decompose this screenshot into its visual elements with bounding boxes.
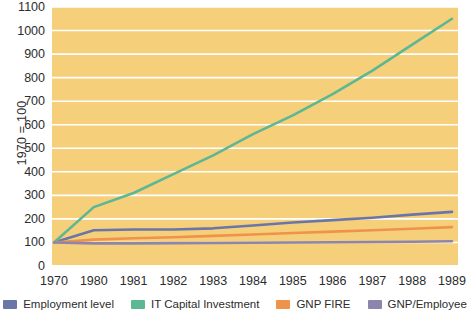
x-tick-label: 1970 <box>40 274 68 288</box>
x-tickmark <box>333 266 335 273</box>
y-tick-label: 1100 <box>18 1 45 14</box>
x-tickmark <box>54 266 56 273</box>
x-tick-label: 1989 <box>438 274 466 288</box>
x-tick-label: 1980 <box>80 274 108 288</box>
gridlines <box>52 7 458 266</box>
y-tick-label: 400 <box>24 166 45 179</box>
x-tickmark <box>213 266 215 273</box>
legend-item[interactable]: GNP/Employee <box>368 298 467 310</box>
x-tickmark <box>134 266 136 273</box>
y-tick-label: 200 <box>24 213 45 226</box>
x-tick-label: 1982 <box>159 274 187 288</box>
y-tick-label: 800 <box>24 71 45 84</box>
series-line <box>54 19 452 243</box>
legend-item[interactable]: IT Capital Investment <box>131 298 259 310</box>
legend-color-swatch <box>368 300 382 309</box>
y-tick-label: 700 <box>24 95 45 108</box>
legend-color-swatch <box>276 300 290 309</box>
x-tick-label: 1984 <box>239 274 267 288</box>
x-tickmark <box>372 266 374 273</box>
y-tick-label: 900 <box>24 48 45 61</box>
y-tick-label: 0 <box>38 260 45 273</box>
y-axis-tick-labels: 110010009008007006005004003002001000 <box>0 0 49 272</box>
legend-color-swatch <box>131 300 145 309</box>
y-tick-label: 500 <box>24 142 45 155</box>
x-axis-tick-labels: 1970198019811982198319841985198619871988… <box>52 274 458 292</box>
x-tickmark <box>253 266 255 273</box>
line-chart: 1970 = 100 11001000900800700600500400300… <box>0 0 470 317</box>
y-tick-label: 1000 <box>17 24 45 37</box>
x-tick-label: 1986 <box>319 274 347 288</box>
x-axis-tickmarks <box>52 266 458 273</box>
legend-color-swatch <box>3 300 17 309</box>
x-tickmark <box>173 266 175 273</box>
chart-legend: Employment levelIT Capital InvestmentGNP… <box>0 294 470 314</box>
series-line <box>54 241 452 243</box>
plot-area <box>52 7 458 266</box>
x-tick-label: 1988 <box>398 274 426 288</box>
y-tick-label: 300 <box>24 189 45 202</box>
x-tick-label: 1985 <box>279 274 307 288</box>
y-tick-label: 100 <box>24 236 45 249</box>
legend-label: IT Capital Investment <box>151 298 259 310</box>
x-tick-label: 1983 <box>199 274 227 288</box>
x-tick-label: 1987 <box>358 274 386 288</box>
x-tickmark <box>293 266 295 273</box>
plot-svg <box>52 7 458 266</box>
legend-label: GNP FIRE <box>296 298 350 310</box>
x-tick-label: 1981 <box>120 274 148 288</box>
legend-item[interactable]: Employment level <box>3 298 114 310</box>
y-tick-label: 600 <box>24 118 45 131</box>
legend-label: Employment level <box>23 298 114 310</box>
x-tickmark <box>94 266 96 273</box>
x-tickmark <box>452 266 454 273</box>
series-lines <box>54 19 452 244</box>
x-tickmark <box>412 266 414 273</box>
legend-item[interactable]: GNP FIRE <box>276 298 350 310</box>
legend-label: GNP/Employee <box>388 298 467 310</box>
